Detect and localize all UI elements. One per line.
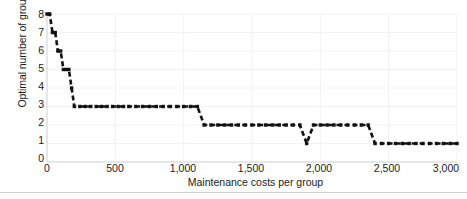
y-tick-7: 7 [16,26,44,38]
x-tick-3000: 3,000 [433,162,459,174]
plot-area [47,14,457,162]
series-canvas [47,14,457,162]
y-tick-6: 6 [16,44,44,56]
y-tick-4: 4 [16,80,44,92]
figure-bottom-border [0,192,467,193]
y-tick-1: 1 [16,134,44,146]
x-axis-label: Maintenance costs per group [188,176,323,188]
y-tick-2: 2 [16,116,44,128]
y-tick-8: 8 [16,8,44,20]
y-tick-3: 3 [16,98,44,110]
y-tick-5: 5 [16,62,44,74]
chart-figure: Optimal number of groups 8 7 6 5 4 3 2 1… [0,0,467,199]
x-tick-500: 500 [106,162,124,174]
x-tick-2500: 2,500 [374,162,400,174]
x-tick-1000: 1,000 [170,162,196,174]
x-tick-2000: 2,000 [306,162,332,174]
x-tick-0: 0 [44,162,50,174]
gridlines [47,14,457,162]
x-axis-label-wrap: Maintenance costs per group [0,176,467,188]
x-tick-1500: 1,500 [238,162,264,174]
